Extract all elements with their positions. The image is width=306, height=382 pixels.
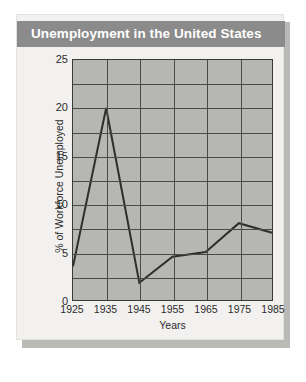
- chart-card: Unemployment in the United States 051015…: [16, 14, 284, 340]
- x-axis-tick-label: 1935: [94, 303, 117, 315]
- gridline-horizontal: [73, 278, 272, 279]
- gridline-horizontal: [73, 133, 272, 134]
- x-axis-tick-label: 1945: [127, 303, 150, 315]
- gridline-vertical: [174, 60, 175, 300]
- data-line-series: [73, 60, 272, 300]
- plot-region: [72, 59, 273, 301]
- chart-title-banner: Unemployment in the United States: [17, 21, 285, 47]
- gridline-horizontal: [73, 157, 272, 158]
- gridline-vertical: [241, 60, 242, 300]
- gridline-horizontal: [73, 108, 272, 109]
- gridline-horizontal: [73, 84, 272, 85]
- x-axis-tick-label: 1925: [60, 303, 83, 315]
- chart-area: 0510152025 % of Workforce Unemployed 192…: [17, 47, 285, 341]
- gridline-horizontal: [73, 181, 272, 182]
- gridline-vertical: [107, 60, 108, 300]
- y-axis-title: % of Workforce Unemployed: [53, 96, 65, 276]
- x-axis-tick-label: 1975: [228, 303, 251, 315]
- y-axis-tick-label: 25: [46, 53, 68, 65]
- page-root: Unemployment in the United States 051015…: [0, 0, 306, 382]
- gridline-vertical: [140, 60, 141, 300]
- gridline-horizontal: [73, 254, 272, 255]
- x-axis-tick-labels: 1925193519451955196519751985: [72, 303, 273, 319]
- gridline-vertical: [207, 60, 208, 300]
- x-axis-tick-label: 1985: [261, 303, 284, 315]
- page-title: Unemployment in the United States: [31, 26, 262, 41]
- x-axis-tick-label: 1955: [161, 303, 184, 315]
- x-axis-tick-label: 1965: [194, 303, 217, 315]
- x-axis-title: Years: [72, 319, 273, 331]
- gridline-horizontal: [73, 205, 272, 206]
- gridline-horizontal: [73, 229, 272, 230]
